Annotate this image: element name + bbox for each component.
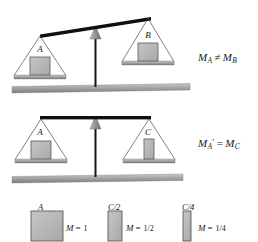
pan-plate-right-1: [122, 61, 174, 65]
pan-plate-left-1: [14, 75, 66, 79]
legend-block-c-half: [108, 211, 122, 241]
legend-swatches: [31, 211, 191, 241]
legend-caption-a: A: [38, 203, 43, 212]
legend-equals-c-half: =: [134, 223, 143, 233]
legend-caption-c-quarter: C/4: [182, 203, 194, 212]
block-a-1: [30, 57, 50, 75]
eq2-right-subscript: C: [235, 142, 240, 151]
eq2-right-symbol: M: [225, 137, 234, 149]
legend-mass-value-c-quarter: 1/4: [215, 224, 226, 233]
eq2-operator: =: [215, 137, 226, 149]
pan-plate-right-2: [123, 159, 175, 163]
legend-equals-c-quarter: =: [206, 223, 215, 233]
block-c-2: [144, 139, 154, 159]
legend-mass-a: M=1: [66, 224, 88, 233]
eq1-operator: ≠: [212, 51, 222, 63]
ground-bar-2: [12, 174, 183, 183]
legend-mass-c-quarter: M=1/4: [198, 224, 226, 233]
legend-block-a: [31, 211, 63, 241]
figure-canvas: A B A C MA≠MB MA′=MC A C/2 C/4 M=1 M=1/2…: [0, 0, 258, 242]
equation-mass-a-neq-b: MA≠MB: [198, 52, 237, 64]
legend-mass-value-c-half: 1/2: [143, 224, 154, 233]
pan-plate-left-2: [15, 159, 67, 163]
block-a-2: [31, 141, 51, 159]
legend-mass-symbol-c-quarter: M: [198, 223, 206, 233]
ground-bar-1: [12, 84, 190, 94]
pan-right-1: [122, 19, 174, 66]
legend-mass-value-a: 1: [83, 224, 88, 233]
block-label-b-1: B: [140, 31, 156, 40]
pan-left-2: [15, 119, 67, 163]
legend-mass-symbol-a: M: [66, 223, 74, 233]
eq1-right-subscript: B: [232, 56, 237, 65]
eq1-right-symbol: M: [223, 51, 232, 63]
legend-equals-a: =: [74, 223, 83, 233]
legend-block-c-quarter: [183, 211, 191, 241]
block-b-1: [138, 43, 158, 61]
equation-mass-a-eq-c: MA′=MC: [198, 138, 240, 150]
legend-mass-c-half: M=1/2: [126, 224, 154, 233]
pan-left-1: [14, 36, 66, 79]
balance-tilted: [12, 17, 190, 93]
legend-mass-symbol-c-half: M: [126, 223, 134, 233]
legend-caption-c-half: C/2: [108, 203, 120, 212]
block-label-a-1: A: [32, 45, 48, 54]
block-label-c-2: C: [140, 128, 156, 137]
beam-2: [40, 116, 151, 119]
pan-right-2: [123, 119, 175, 163]
block-label-a-2: A: [32, 128, 48, 137]
